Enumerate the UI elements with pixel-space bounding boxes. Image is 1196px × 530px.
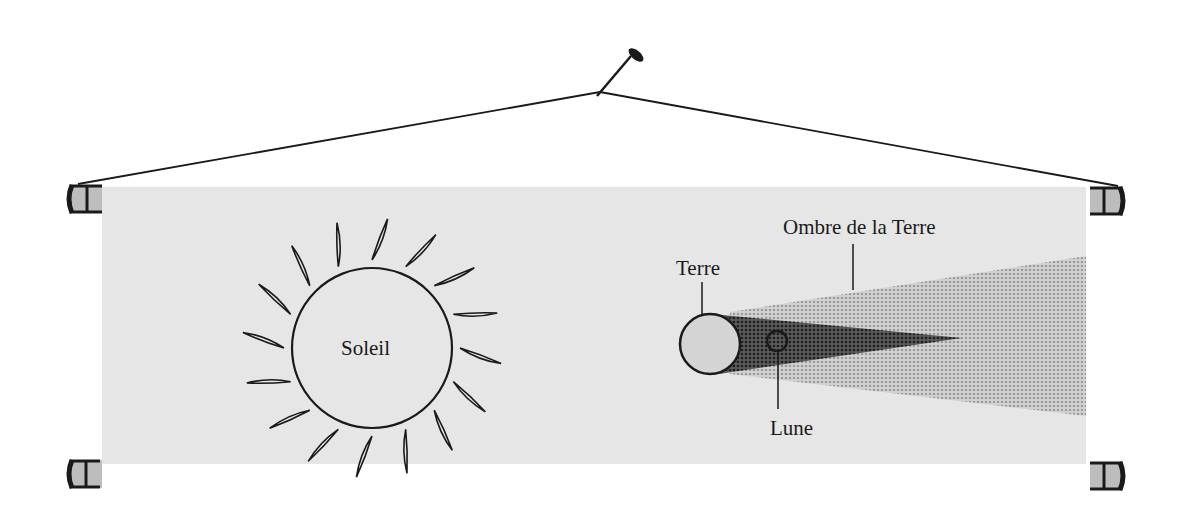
sun-label: Soleil bbox=[341, 338, 390, 359]
moon-label: Lune bbox=[770, 418, 813, 439]
moon bbox=[767, 331, 787, 351]
earth-shadow-label: Ombre de la Terre bbox=[783, 217, 936, 238]
roller-bottom-right bbox=[1090, 462, 1123, 490]
roller-top-right bbox=[1090, 187, 1123, 215]
roller-bottom-left bbox=[69, 460, 102, 488]
eclipse-diagram: Soleil Terre Lune Ombre de la Terre bbox=[0, 0, 1196, 530]
earth-label: Terre bbox=[676, 258, 720, 279]
nail-icon bbox=[597, 46, 646, 96]
earth bbox=[680, 314, 740, 374]
roller-top-left bbox=[69, 185, 102, 213]
hanging-string bbox=[78, 92, 1118, 186]
